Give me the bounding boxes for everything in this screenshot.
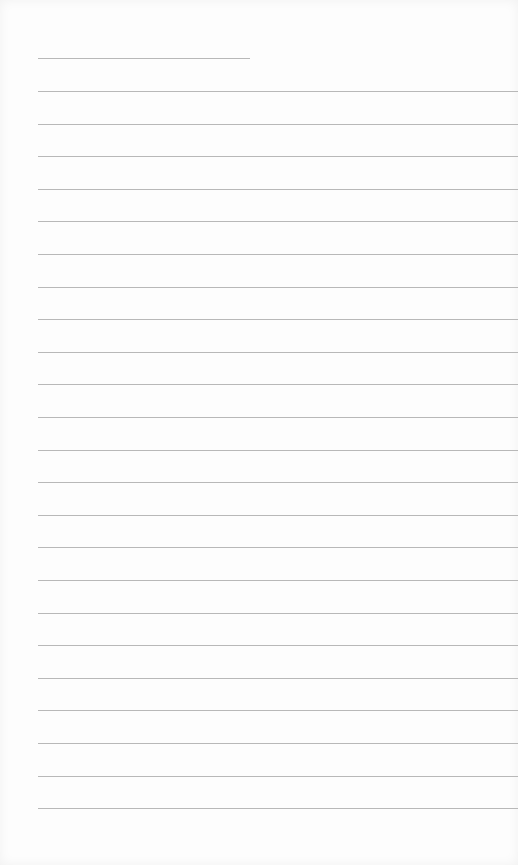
ruled-line <box>38 710 518 711</box>
ruled-line <box>38 221 518 222</box>
ruled-line <box>38 515 518 516</box>
ruled-line <box>38 580 518 581</box>
ruled-line <box>38 678 518 679</box>
ruled-line <box>38 156 518 157</box>
ruled-line <box>38 417 518 418</box>
ruled-line <box>38 254 518 255</box>
ruled-line <box>38 776 518 777</box>
ruled-line <box>38 91 518 92</box>
title-line <box>38 58 250 59</box>
ruled-line <box>38 547 518 548</box>
ruled-line <box>38 384 518 385</box>
ruled-line <box>38 352 518 353</box>
ruled-line <box>38 189 518 190</box>
ruled-line <box>38 645 518 646</box>
ruled-line <box>38 808 518 809</box>
ruled-line <box>38 450 518 451</box>
ruled-line <box>38 743 518 744</box>
lined-paper <box>0 0 518 865</box>
ruled-line <box>38 287 518 288</box>
ruled-line <box>38 482 518 483</box>
ruled-line <box>38 613 518 614</box>
ruled-line <box>38 124 518 125</box>
ruled-line <box>38 319 518 320</box>
